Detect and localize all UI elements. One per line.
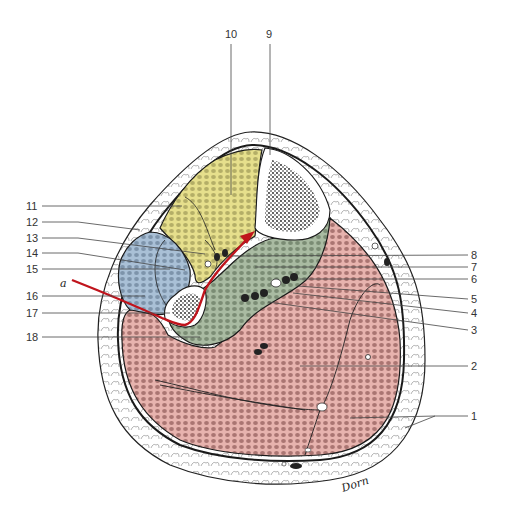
vessel (317, 403, 327, 411)
label-14: 14 (26, 247, 38, 259)
label-9: 9 (266, 28, 272, 40)
label-16: 16 (26, 290, 38, 302)
label-8: 8 (471, 249, 477, 261)
vessel (366, 355, 371, 360)
label-17: 17 (26, 307, 38, 319)
label-11: 11 (26, 200, 37, 212)
arrow-label-a: a (60, 277, 67, 290)
label-6: 6 (471, 273, 477, 285)
label-15: 15 (26, 263, 38, 275)
label-10: 10 (225, 28, 237, 40)
leg-cross-section-diagram: a Dorn 11 12 13 14 15 16 17 18 10 9 8 7 … (0, 0, 507, 518)
label-7: 7 (471, 261, 477, 273)
label-12: 12 (26, 216, 38, 228)
label-3: 3 (471, 324, 477, 336)
label-5: 5 (471, 293, 477, 305)
label-13: 13 (26, 232, 38, 244)
label-4: 4 (471, 307, 477, 319)
vessel (305, 448, 311, 452)
label-2: 2 (471, 360, 477, 372)
label-1: 1 (471, 410, 477, 422)
label-18: 18 (26, 331, 38, 343)
